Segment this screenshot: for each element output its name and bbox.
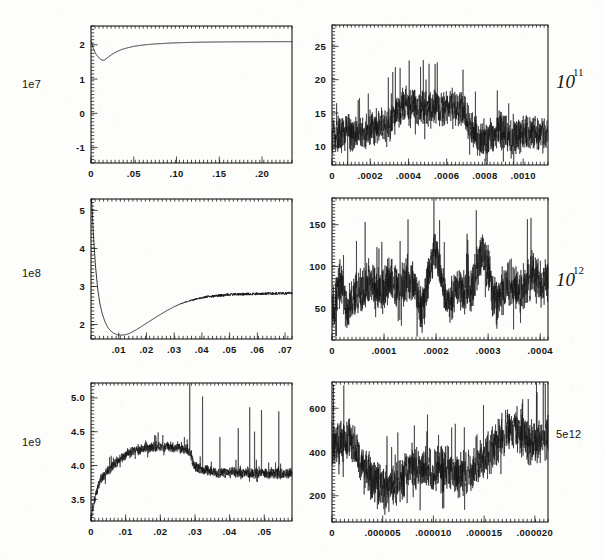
x-tick-label: .02 [153, 526, 167, 537]
x-tick-label: .0010 [511, 170, 536, 181]
y-tick-label: 25 [315, 41, 327, 52]
x-tick-label: .0004 [396, 170, 422, 181]
six-panel-figure: 0.05.10.15.20-10121e70.0002.0004.0006.00… [0, 0, 605, 560]
x-tick-label: 0 [88, 526, 94, 537]
y-tick-label: 10 [315, 141, 326, 152]
x-tick-label: .15 [212, 168, 227, 179]
x-tick-label: .06 [250, 344, 264, 355]
y-tick-label: -1 [76, 142, 85, 153]
y-scale-label: 1e8 [22, 267, 41, 279]
x-tick-label: .03 [188, 526, 202, 537]
x-tick-label: 0 [88, 168, 94, 179]
panel-middle-left: .01.02.03.04.05.06.0723451e8 [22, 199, 292, 355]
figure-canvas: 0.05.10.15.20-10121e70.0002.0004.0006.00… [0, 0, 605, 560]
plot-frame [332, 382, 548, 522]
y-tick-label: 4 [79, 243, 85, 254]
x-tick-label: .000005 [364, 527, 401, 538]
y-scale-label: 5e12 [556, 428, 581, 440]
x-tick-label: .0002 [358, 170, 383, 181]
x-tick-label: .10 [169, 168, 183, 179]
x-tick-label: .07 [278, 344, 292, 355]
y-tick-label: 3 [79, 281, 85, 292]
x-tick-label: .20 [255, 168, 269, 179]
panel-top-left: 0.05.10.15.20-10121e7 [22, 26, 292, 179]
data-trace [332, 383, 548, 515]
x-tick-label: .0001 [371, 345, 397, 356]
x-tick-label: .0008 [472, 170, 497, 181]
x-tick-label: .05 [257, 526, 272, 537]
x-tick-label: 0 [329, 345, 335, 356]
y-tick-label: 0 [79, 108, 85, 119]
panel-top-right: 0.0002.0004.0006.0008.0010101520251011 [315, 25, 584, 181]
x-tick-label: .000020 [517, 527, 553, 538]
x-tick-label: .0002 [423, 345, 448, 356]
x-tick-label: .01 [112, 344, 127, 355]
plot-frame [91, 26, 292, 163]
y-tick-label: 5 [79, 205, 85, 216]
panel-bottom-left: 0.01.02.03.04.053.54.04.55.01e9 [22, 383, 292, 537]
x-tick-label: 0 [329, 527, 335, 538]
y-tick-label: 2 [79, 319, 85, 330]
y-scale-label: 1e9 [22, 436, 41, 448]
data-trace [91, 199, 292, 335]
y-tick-label: 50 [315, 303, 326, 314]
y-tick-label: 4.5 [71, 426, 86, 437]
y-tick-label: 3.5 [71, 494, 86, 505]
y-scale-exponent: 11 [573, 66, 584, 78]
x-tick-label: 0 [329, 170, 335, 181]
x-tick-label: .0006 [434, 170, 459, 181]
y-tick-label: 400 [309, 447, 326, 458]
x-tick-label: .05 [127, 168, 142, 179]
data-trace [91, 384, 292, 521]
x-tick-label: .02 [139, 344, 153, 355]
y-tick-label: 150 [309, 219, 326, 230]
x-tick-label: .04 [223, 526, 238, 537]
y-tick-label: 5.0 [71, 392, 85, 403]
x-tick-label: .01 [119, 526, 134, 537]
y-tick-label: 20 [315, 74, 326, 85]
y-scale-label: 1e7 [22, 78, 41, 90]
x-tick-label: .000015 [466, 527, 503, 538]
data-trace [332, 60, 548, 164]
plot-frame [91, 199, 292, 339]
y-tick-label: 15 [315, 108, 327, 119]
y-tick-label: 2 [79, 39, 85, 50]
panel-bottom-right: 0.000005.000010.000015.0000202004006005e… [309, 382, 581, 538]
y-tick-label: 1 [79, 74, 85, 85]
x-tick-label: .05 [223, 344, 238, 355]
y-scale-exponent: 12 [573, 264, 584, 276]
x-tick-label: .000010 [415, 527, 451, 538]
x-tick-label: .0003 [476, 345, 501, 356]
x-tick-label: .04 [195, 344, 210, 355]
panel-middle-right: 0.0001.0002.0003.0004501001501012 [309, 198, 584, 356]
y-tick-label: 4.0 [71, 460, 85, 471]
x-tick-label: .03 [167, 344, 181, 355]
y-tick-label: 200 [309, 490, 326, 501]
x-tick-label: .0004 [528, 345, 554, 356]
y-tick-label: 600 [309, 403, 326, 414]
y-tick-label: 100 [309, 261, 326, 272]
data-trace [332, 199, 548, 337]
